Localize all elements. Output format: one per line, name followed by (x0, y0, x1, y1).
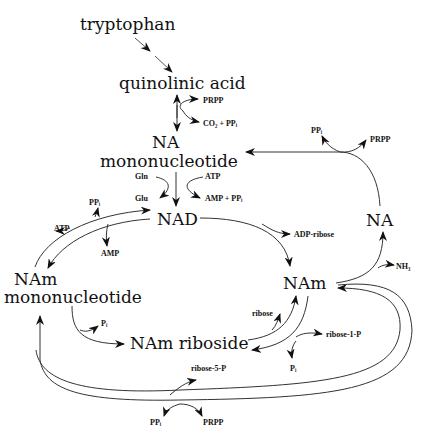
label-adp-ribose: ADP-ribose (294, 230, 334, 239)
label-amp-ppi: AMP + PPᵢ (205, 194, 243, 203)
label-gln: Gln (135, 172, 148, 181)
label-prpp-bottom: PRPP (203, 418, 224, 427)
node-na-mononucleotide-line1: NA (152, 132, 180, 152)
label-ppi-bottom: PPᵢ (150, 418, 162, 427)
node-quinolinic-acid: quinolinic acid (119, 73, 246, 93)
label-pi-nam: Pᵢ (290, 364, 297, 373)
node-tryptophan: tryptophan (80, 14, 175, 34)
node-nam-mononucleotide-line2: mononucleotide (4, 287, 142, 307)
label-atp-namn: ATP (54, 224, 70, 233)
label-prpp-na: PRPP (370, 135, 391, 144)
label-pi-riboside: Pᵢ (101, 319, 108, 328)
arrow-riboside-nam (248, 296, 322, 358)
arrow-namn-to-nam-riboside (72, 306, 124, 344)
node-nam: NAm (283, 273, 326, 293)
label-ribose: ribose (252, 309, 273, 318)
pathway-diagram: tryptophan quinolinic acid NA mononucleo… (0, 0, 430, 437)
arrow-nad-to-nam (200, 218, 290, 266)
node-nam-riboside: NAm riboside (130, 333, 248, 353)
label-prpp-quinolinic: PRPP (203, 96, 224, 105)
label-co2-ppi: CO₂ + PPᵢ (203, 119, 238, 128)
label-ribose-5-p: ribose-5-P (191, 364, 226, 373)
arrow-tryptophan-to-quinolinic (135, 38, 172, 72)
label-atp-nad: ATP (205, 172, 221, 181)
label-amp-namn: AMP (101, 249, 119, 258)
label-ppi-namn: PPᵢ (89, 198, 101, 207)
arrow-na-mononucleotide-to-nad (156, 172, 203, 206)
label-nh3: NH₃ (396, 262, 411, 271)
label-ribose-1-p: ribose-1-P (326, 330, 361, 339)
node-na-mononucleotide-line2: mononucleotide (100, 151, 238, 171)
node-nam-mononucleotide-line1: NAm (14, 269, 57, 289)
node-nad: NAD (157, 209, 198, 229)
arrow-quinolinic-na-mononucleotide (177, 95, 199, 131)
arrow-nam-to-na (336, 232, 394, 283)
label-ppi-na: PPᵢ (311, 126, 323, 135)
node-na: NA (366, 210, 394, 230)
label-glu: Glu (135, 194, 148, 203)
arrow-nad-namn-loop (35, 208, 150, 268)
arrow-na-to-na-mononucleotide (246, 136, 380, 206)
